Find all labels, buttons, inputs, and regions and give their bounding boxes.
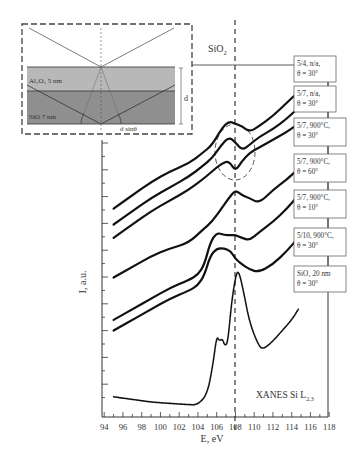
legend-box: 5/10, 900°C,θ = 30° bbox=[294, 228, 346, 256]
sio2-reference-label: SiO2 bbox=[208, 43, 227, 56]
spectrum-curve bbox=[114, 124, 299, 238]
x-axis-tick-labels: 949698100102104106108110112114116118 bbox=[100, 422, 335, 432]
legend-line-2: θ = 30° bbox=[297, 242, 318, 250]
legend-line-1: SiO₂ 20 nm bbox=[297, 270, 331, 278]
x-tick-label: 102 bbox=[173, 422, 186, 432]
x-tick-label: 100 bbox=[154, 422, 167, 432]
x-tick-label: 116 bbox=[304, 422, 316, 432]
x-tick-label: 98 bbox=[137, 422, 146, 432]
legend-box: 5/4, n/a,θ = 30° bbox=[294, 56, 336, 82]
x-tick-label: 94 bbox=[100, 422, 109, 432]
x-tick-label: 114 bbox=[285, 422, 298, 432]
x-axis-ticks bbox=[104, 412, 329, 417]
legend-box: 5/7, 900°C,θ = 10° bbox=[294, 190, 346, 218]
x-axis-label: E, eV bbox=[201, 433, 225, 444]
y-axis-ticks bbox=[102, 143, 108, 398]
legend-line-1: 5/7, n/a, bbox=[297, 90, 321, 98]
spectrum-curve bbox=[114, 272, 299, 404]
legend-line-2: θ = 30° bbox=[297, 70, 318, 78]
legend-line-2: θ = 60° bbox=[297, 168, 318, 176]
legend-box: 5/7, 900°C,θ = 60° bbox=[294, 154, 346, 182]
x-tick-label: 112 bbox=[267, 422, 279, 432]
thickness-d-label: d bbox=[184, 94, 188, 103]
legend-line-2: θ = 30° bbox=[297, 132, 318, 140]
legend-line-1: 5/7, 900°C, bbox=[297, 194, 330, 202]
x-tick-label: 110 bbox=[248, 422, 260, 432]
legend-line-1: 5/4, n/a, bbox=[297, 60, 321, 68]
legend-boxes: 5/4, n/a,θ = 30°5/7, n/a,θ = 30°5/7, 900… bbox=[294, 56, 346, 292]
legend-line-2: θ = 30° bbox=[297, 280, 318, 288]
spectra-curves bbox=[114, 92, 299, 405]
legend-line-1: 5/7, 900°C, bbox=[297, 158, 330, 166]
inset-schematic: Al₂O₃ 5 nm SiO 7 nm d sinθ d bbox=[22, 24, 192, 134]
legend-box: 5/7, n/a,θ = 30° bbox=[294, 86, 336, 112]
d-sin-theta-label: d sinθ bbox=[120, 125, 137, 133]
x-tick-label: 106 bbox=[210, 422, 223, 432]
legend-line-2: θ = 30° bbox=[297, 100, 318, 108]
spectrum-curve bbox=[114, 238, 299, 331]
sio-label: SiO 7 nm bbox=[29, 113, 56, 121]
legend-box: SiO₂ 20 nmθ = 30° bbox=[294, 266, 346, 292]
legend-line-1: 5/7, 900°C, bbox=[297, 122, 330, 130]
legend-line-2: θ = 10° bbox=[297, 204, 318, 212]
spectrum-curve bbox=[114, 195, 299, 320]
al2o3-label: Al₂O₃ 5 nm bbox=[29, 77, 62, 85]
legend-line-1: 5/10, 900°C, bbox=[297, 232, 334, 240]
x-tick-label: 104 bbox=[192, 422, 206, 432]
legend-box: 5/7, 900°C,θ = 30° bbox=[294, 118, 346, 146]
x-tick-label: 118 bbox=[323, 422, 335, 432]
xanes-si-l23-label: XANES Si L2,3 bbox=[256, 390, 314, 402]
y-axis-label: I, a.u. bbox=[77, 271, 88, 294]
x-tick-label: 96 bbox=[119, 422, 128, 432]
xanes-figure: 949698100102104106108110112114116118 E, … bbox=[0, 0, 364, 463]
